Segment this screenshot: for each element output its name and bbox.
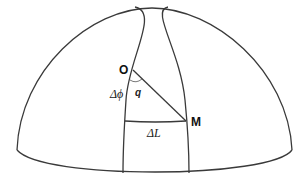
- equator-ellipse: [17, 150, 292, 172]
- meridian-through-O: [123, 7, 145, 173]
- label-delta-L: ΔL: [146, 126, 161, 140]
- label-O: O: [119, 63, 128, 77]
- spherical-triangle-diagram: O M Δϕ q ΔL: [0, 0, 308, 177]
- parallel-arc-deltaL: [125, 121, 186, 122]
- meridian-through-M: [162, 7, 189, 173]
- label-M: M: [191, 115, 201, 129]
- angle-arc-q: [130, 79, 142, 82]
- label-angle-q: q: [135, 87, 141, 98]
- label-delta-phi: Δϕ: [109, 87, 123, 101]
